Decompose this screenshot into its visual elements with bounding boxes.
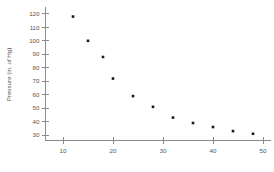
data-point <box>252 132 255 135</box>
data-point <box>212 126 215 129</box>
scatter-plot-figure: 30405060708090100110120 1020304050 Press… <box>0 0 274 172</box>
y-axis-tick-label: 80 <box>33 64 40 71</box>
y-axis-tick-label: 60 <box>33 91 40 98</box>
y-axis-tick-label: 100 <box>29 37 40 44</box>
y-axis-tick-label: 40 <box>33 118 40 125</box>
y-axis-tick-label: 120 <box>29 10 40 17</box>
y-axis-tick-label: 50 <box>33 104 40 111</box>
y-axis-tick-label: 70 <box>33 77 40 84</box>
data-point <box>87 40 90 43</box>
data-point-series <box>72 15 255 135</box>
data-point <box>102 56 105 59</box>
data-point <box>152 106 155 109</box>
x-axis: 1020304050 <box>46 137 271 154</box>
x-axis-tick-label: 10 <box>60 147 67 154</box>
y-axis-title: Pressure (in. of Hg) <box>5 48 12 102</box>
data-point <box>232 130 235 133</box>
plot-canvas: 30405060708090100110120 1020304050 Press… <box>0 0 274 172</box>
y-axis: 30405060708090100110120 <box>29 7 49 141</box>
data-point <box>172 116 175 119</box>
x-axis-tick-label: 30 <box>160 147 167 154</box>
x-axis-tick-label: 40 <box>210 147 217 154</box>
data-point <box>112 77 115 80</box>
y-axis-tick-label: 110 <box>30 24 40 31</box>
y-axis-tick-label: 90 <box>33 50 40 57</box>
x-axis-tick-label: 20 <box>110 147 117 154</box>
x-axis-tick-label: 50 <box>260 147 267 154</box>
data-point <box>132 95 135 98</box>
data-point <box>72 15 75 18</box>
data-point <box>192 122 195 125</box>
y-axis-tick-label: 30 <box>33 131 40 138</box>
y-axis-title-text: Pressure (in. of Hg) <box>5 48 12 102</box>
